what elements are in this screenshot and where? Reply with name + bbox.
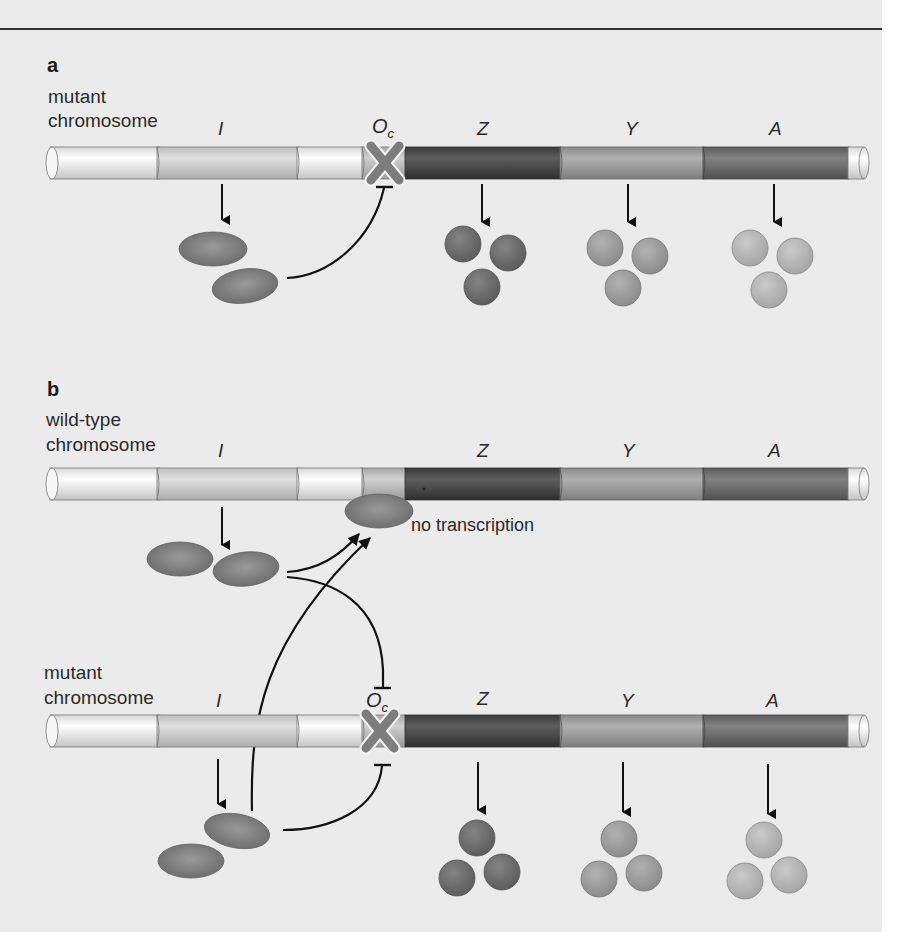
operator-label-oc: Oc: [372, 115, 394, 141]
no-transcription-annotation: no transcription: [411, 515, 534, 536]
panel-b-wildtype-chromosome: [46, 468, 869, 500]
gene-label-y-mut: Y: [621, 690, 634, 712]
gene-label-y: Y: [625, 118, 638, 140]
panel-b-wildtype-label-line2: chromosome: [46, 434, 156, 455]
gene-label-a: A: [769, 118, 782, 140]
panel-b-wildtype-label-line1: wild-type: [46, 409, 121, 430]
panel-b-mutant-label-line1: mutant: [44, 662, 102, 683]
gene-label-a-mut: A: [766, 690, 779, 712]
panel-a-chromosome-label-line1: mutant: [48, 86, 106, 107]
repressor-proteins-b: [147, 542, 281, 589]
operator-label-oc-mut: Oc: [366, 689, 388, 715]
gene-label-z-mut: Z: [477, 688, 489, 710]
panel-a-mutant-chromosome: [46, 146, 869, 180]
y-proteins-b: [581, 821, 662, 897]
gene-label-i: I: [218, 118, 223, 140]
panel-a-chromosome-label-line2: chromosome: [48, 110, 158, 131]
panel-a-label: a: [47, 54, 58, 77]
gene-label-i-wt: I: [218, 440, 223, 462]
a-proteins-b: [727, 822, 807, 899]
z-proteins-a: [445, 226, 526, 305]
z-proteins-b: [439, 820, 520, 896]
panel-b-mutant-chromosome: [46, 714, 869, 748]
a-proteins-a: [732, 230, 813, 308]
y-proteins-a: [587, 230, 668, 306]
gene-label-z: Z: [477, 118, 489, 140]
gene-label-y-wt: Y: [622, 440, 635, 462]
repressor-proteins-b-mutant: [158, 809, 272, 878]
repressor-proteins-a: [179, 232, 280, 307]
gene-label-z-wt: Z: [477, 440, 489, 462]
bound-repressor: [345, 494, 413, 528]
gene-label-a-wt: A: [768, 440, 781, 462]
panel-b-mutant-label-line2: chromosome: [44, 687, 154, 708]
gene-label-i-mut: I: [216, 690, 221, 712]
panel-b-label: b: [47, 378, 59, 401]
